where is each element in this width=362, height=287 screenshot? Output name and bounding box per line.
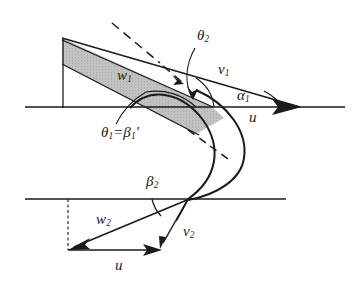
label-theta1-equals-beta1-prime: θ1=β1′: [101, 125, 139, 141]
label-v2: v2: [183, 224, 195, 240]
label-beta2: β2: [146, 174, 158, 190]
label-alpha1: α1: [237, 88, 250, 104]
diagram-canvas: [0, 0, 362, 287]
velocity-triangle-figure: θ2 v1 α1 u w1 θ1=β1′ β2 w2 v2 u: [0, 0, 362, 287]
label-u-top: u: [249, 110, 257, 125]
label-u-bottom: u: [115, 258, 123, 273]
label-theta2: θ2: [197, 28, 209, 44]
shaded-inlet-band: [62, 38, 300, 135]
outlet-velocity-triangle: [68, 199, 187, 256]
label-w1: w1: [117, 68, 132, 84]
label-w2: w2: [96, 212, 111, 228]
label-v1: v1: [218, 62, 230, 78]
